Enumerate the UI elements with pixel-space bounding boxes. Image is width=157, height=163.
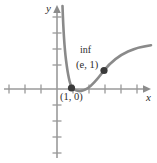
x-intercept-label: (1, 0)	[60, 92, 83, 103]
y-axis-label: y	[46, 3, 51, 14]
y-axis-arrowhead	[53, 5, 61, 13]
function-curve	[63, 6, 152, 91]
y-axis	[53, 5, 62, 158]
cartesian-graph-figure: y x inf (e, 1) (1, 0)	[0, 0, 157, 163]
point-marker-inflection	[100, 67, 107, 74]
x-axis-label: x	[146, 92, 151, 103]
inflection-point-label: (e, 1)	[76, 60, 98, 71]
graph-canvas	[0, 0, 157, 163]
inflection-note-label: inf	[80, 45, 91, 55]
